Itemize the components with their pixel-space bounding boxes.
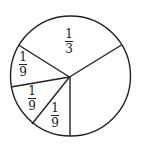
numerator: 1 — [25, 86, 39, 96]
denominator: 9 — [48, 118, 62, 128]
slice-label-one-third: 1 3 — [62, 29, 76, 54]
slice-label-one-ninth-upper: 1 9 — [16, 52, 30, 77]
slice-label-one-ninth-lower: 1 9 — [48, 103, 62, 128]
numerator: 1 — [48, 103, 62, 113]
denominator: 9 — [16, 67, 30, 77]
denominator: 3 — [62, 44, 76, 54]
numerator: 1 — [62, 29, 76, 39]
numerator: 1 — [16, 52, 30, 62]
denominator: 9 — [25, 101, 39, 111]
slice-label-one-ninth-middle: 1 9 — [25, 86, 39, 111]
